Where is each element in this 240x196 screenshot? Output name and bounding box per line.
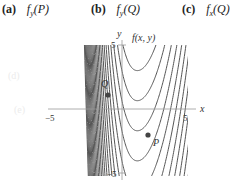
contour-lines — [84, 20, 193, 196]
contour-plot: x y f(x, y) −5 5 5 −5 Q P — [0, 0, 240, 195]
y-axis-label: y — [116, 28, 122, 39]
x-tick-pos5: 5 — [183, 113, 188, 123]
y-tick-pos5: 5 — [111, 40, 116, 50]
point-q-marker — [105, 92, 110, 97]
contour-line — [106, 20, 185, 191]
y-tick-neg5: −5 — [107, 169, 117, 179]
point-p-marker — [145, 132, 150, 137]
point-p-label: P — [152, 137, 159, 148]
plot-title: f(x, y) — [132, 32, 156, 44]
x-tick-neg5: −5 — [45, 113, 55, 123]
point-q-label: Q — [101, 78, 109, 89]
x-axis-label: x — [199, 103, 205, 114]
